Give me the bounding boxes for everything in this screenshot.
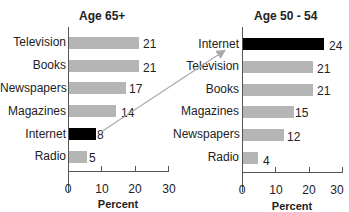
arrow-icon — [0, 0, 349, 212]
